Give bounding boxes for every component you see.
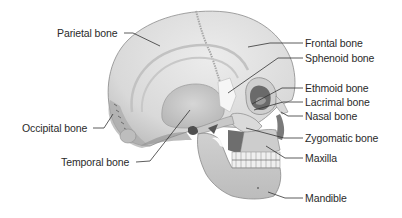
skull-diagram: Parietal bone Frontal bone Sphenoid bone… xyxy=(0,0,402,218)
label-lacrimal-bone: Lacrimal bone xyxy=(305,96,370,108)
label-maxilla: Maxilla xyxy=(305,152,337,164)
label-mandible: Mandible xyxy=(305,192,347,204)
label-temporal-bone: Temporal bone xyxy=(61,156,129,168)
teeth xyxy=(232,152,280,168)
label-frontal-bone: Frontal bone xyxy=(305,37,363,49)
label-zygomatic-bone: Zygomatic bone xyxy=(305,132,378,144)
label-parietal-bone: Parietal bone xyxy=(57,27,118,39)
label-sphenoid-bone: Sphenoid bone xyxy=(305,52,374,64)
label-ethmoid-bone: Ethmoid bone xyxy=(305,82,369,94)
label-nasal-bone: Nasal bone xyxy=(305,110,357,122)
label-occipital-bone: Occipital bone xyxy=(22,122,87,134)
